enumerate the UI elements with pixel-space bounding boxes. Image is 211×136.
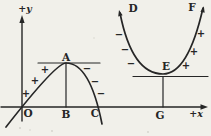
- max-rising-sign: +: [41, 64, 49, 75]
- point-d-label: D: [128, 2, 137, 14]
- min-rising-sign: +: [182, 60, 190, 71]
- max-rising-sign: +: [31, 75, 39, 86]
- min-falling-sign: −: [121, 44, 129, 55]
- point-b-label: B: [62, 108, 71, 120]
- max-falling-sign: −: [83, 63, 91, 74]
- figure-canvas: +y +x O A B C + + + − − − D E F G − − − …: [0, 0, 211, 136]
- scan-speck: [147, 131, 149, 133]
- max-falling-sign: −: [91, 76, 99, 87]
- scan-speck: [51, 130, 53, 132]
- origin-label: O: [23, 107, 32, 119]
- min-falling-sign: −: [115, 29, 123, 40]
- point-e-label: E: [162, 60, 170, 72]
- x-axis-label: +x: [189, 108, 203, 119]
- scan-speck: [93, 37, 94, 38]
- point-f-label: F: [188, 1, 196, 13]
- scan-speck: [29, 129, 31, 131]
- min-falling-sign: −: [127, 58, 135, 69]
- point-a-label: A: [61, 51, 71, 63]
- point-g-label: G: [156, 109, 165, 121]
- max-falling-sign: −: [97, 88, 105, 99]
- min-rising-sign: +: [190, 46, 198, 57]
- scan-speck: [19, 127, 21, 129]
- min-rising-sign: +: [197, 28, 205, 39]
- max-rising-sign: +: [22, 88, 30, 99]
- y-axis-label: +y: [18, 3, 33, 14]
- point-c-label: C: [91, 107, 99, 119]
